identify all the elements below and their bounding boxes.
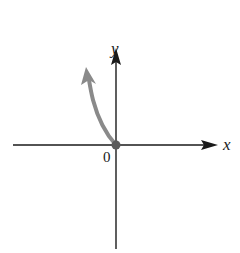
origin-dot bbox=[112, 141, 121, 150]
curve bbox=[81, 67, 116, 145]
origin-label: 0 bbox=[103, 150, 111, 165]
coordinate-diagram: x y 0 bbox=[0, 0, 240, 253]
y-axis-label: y bbox=[111, 40, 119, 57]
x-axis-label: x bbox=[223, 136, 231, 153]
diagram-canvas bbox=[0, 0, 240, 253]
